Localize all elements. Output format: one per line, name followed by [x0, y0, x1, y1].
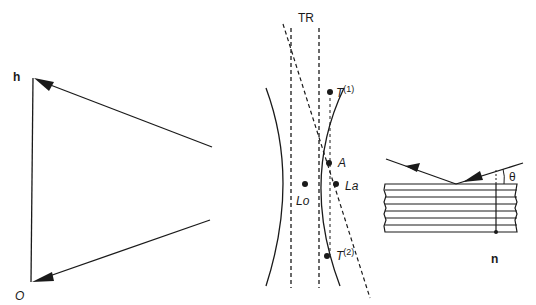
arrowhead-origin-icon	[32, 272, 54, 282]
point-Lo	[302, 181, 308, 187]
vertical-line	[31, 78, 33, 282]
point-A	[326, 160, 332, 166]
hyperbola-figure: TR T(1) A La Lo T(2)	[266, 11, 370, 298]
label-TR: TR	[298, 11, 314, 25]
normal-arrowhead-icon	[494, 230, 498, 234]
vector-triangle: h O	[13, 70, 212, 303]
point-La	[333, 181, 339, 187]
arrow-to-h	[40, 81, 212, 147]
layered-surface-reflection: θ n	[384, 159, 523, 266]
incident-arrowhead-icon	[463, 171, 483, 182]
point-T1	[327, 89, 333, 95]
label-origin: O	[15, 289, 24, 303]
arrowhead-h-icon	[34, 78, 54, 91]
point-T2	[324, 253, 330, 259]
label-T1: T(1)	[336, 84, 354, 100]
label-theta: θ	[509, 170, 516, 184]
label-A: A	[337, 156, 346, 170]
reflected-ray	[386, 159, 456, 184]
theta-arc	[503, 169, 504, 184]
label-T2: T(2)	[336, 247, 354, 263]
label-h: h	[13, 70, 20, 84]
label-Lo: Lo	[296, 194, 310, 208]
hyperbola-left-branch	[266, 88, 283, 286]
diagram-canvas: h O TR T(1) A La Lo T(2)	[0, 0, 536, 305]
arrow-to-origin	[38, 220, 210, 280]
label-La: La	[345, 179, 359, 193]
label-n: n	[491, 252, 498, 266]
